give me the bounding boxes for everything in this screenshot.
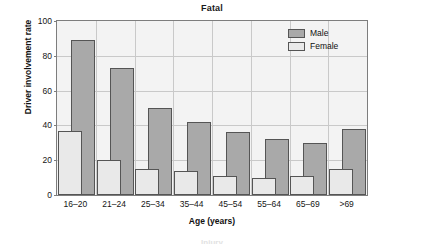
x-tick-label-55–64: 55–64 xyxy=(257,199,281,209)
x-tick-label-21–24: 21–24 xyxy=(102,199,126,209)
chart-title: Fatal xyxy=(0,3,424,13)
bar-female-45–54 xyxy=(213,176,237,195)
bar-female-65–69 xyxy=(290,176,314,195)
y-tick-label-40: 40 xyxy=(43,120,52,130)
bar-female->69 xyxy=(329,169,353,195)
gridline-x-5 xyxy=(251,21,252,195)
chart-figure: Fatal Driver involvement rate Age (years… xyxy=(0,0,424,249)
y-tick-label-80: 80 xyxy=(43,51,52,61)
y-tick-mark-60 xyxy=(54,91,57,92)
y-tick-mark-100 xyxy=(54,21,57,22)
bar-female-55–64 xyxy=(252,178,276,195)
y-tick-mark-40 xyxy=(54,125,57,126)
y-tick-label-0: 0 xyxy=(47,190,52,200)
y-tick-label-100: 100 xyxy=(38,16,52,26)
x-tick-label-65–69: 65–69 xyxy=(296,199,320,209)
x-tick-label-35–44: 35–44 xyxy=(180,199,204,209)
bar-female-35–44 xyxy=(174,171,198,195)
legend-label-male: Male xyxy=(310,28,328,38)
bar-female-25–34 xyxy=(135,169,159,195)
y-tick-mark-80 xyxy=(54,56,57,57)
x-tick-label-16–20: 16–20 xyxy=(64,199,88,209)
gridline-x-4 xyxy=(212,21,213,195)
y-tick-mark-20 xyxy=(54,160,57,161)
y-axis-title: Driver involvement rate xyxy=(23,0,33,147)
y-tick-mark-0 xyxy=(54,195,57,196)
legend-label-female: Female xyxy=(310,41,338,51)
legend-item-female: Female xyxy=(288,41,338,51)
chart-legend: Male Female xyxy=(288,28,338,51)
y-tick-label-60: 60 xyxy=(43,86,52,96)
x-tick-label-45–54: 45–54 xyxy=(219,199,243,209)
x-tick-label->69: >69 xyxy=(339,199,353,209)
legend-item-male: Male xyxy=(288,28,338,38)
legend-swatch-female-icon xyxy=(288,42,305,51)
x-tick-label-25–34: 25–34 xyxy=(141,199,165,209)
y-tick-label-20: 20 xyxy=(43,155,52,165)
legend-swatch-male-icon xyxy=(288,29,305,38)
clipped-next-figure-title: Injury xyxy=(0,237,424,244)
x-axis-title: Age (years) xyxy=(56,216,368,226)
gridline-x-3 xyxy=(173,21,174,195)
bar-female-16–20 xyxy=(58,131,82,195)
bar-female-21–24 xyxy=(97,160,121,195)
